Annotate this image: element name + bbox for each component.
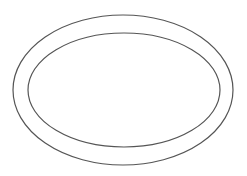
ring-diagram <box>0 0 247 176</box>
outer-ellipse <box>13 15 233 165</box>
inner-ellipse <box>28 33 220 147</box>
